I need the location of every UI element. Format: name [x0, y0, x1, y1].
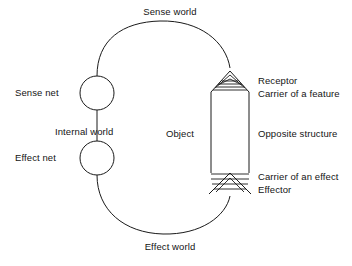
label-internal-world: Internal world — [55, 126, 113, 138]
label-effect-net: Effect net — [15, 152, 56, 164]
label-object: Object — [166, 128, 194, 140]
receptor-outer-triangle — [211, 71, 249, 92]
label-receptor: Receptor — [258, 75, 297, 87]
sense-world-arc — [97, 21, 230, 76]
effect-net-circle — [80, 141, 114, 175]
label-carrier-of-an-effect: Carrier of an effect — [258, 171, 339, 183]
effector-outer-chevron — [209, 173, 251, 194]
label-carrier-of-a-feature: Carrier of a feature — [258, 88, 340, 100]
label-sense-world: Sense world — [122, 6, 218, 18]
label-effector: Effector — [258, 184, 291, 196]
effector-inner-chevron — [216, 178, 244, 192]
sense-net-circle — [80, 76, 114, 110]
functional-cycle-diagram: Sense world Effect world Sense net Effec… — [0, 0, 352, 266]
label-effect-world: Effect world — [122, 241, 218, 253]
effect-world-arc — [97, 175, 230, 234]
label-sense-net: Sense net — [15, 87, 59, 99]
label-opposite-structure: Opposite structure — [258, 128, 337, 140]
receptor-inner-chevron-1 — [215, 75, 245, 88]
